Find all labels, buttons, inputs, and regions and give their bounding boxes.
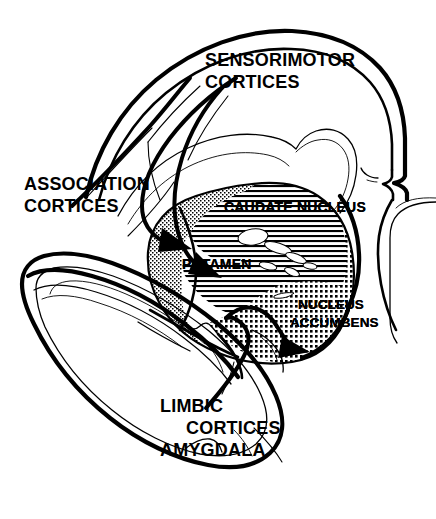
sensorimotor-label-line1: SENSORIMOTOR bbox=[205, 50, 355, 70]
accumbens-label-line1: NUCLEUS bbox=[298, 297, 364, 312]
putamen-label: PUTAMEN bbox=[182, 256, 252, 272]
label-caudate-nucleus: CAUDATE NUCLEUS CAUDATE NUCLEUS bbox=[224, 199, 366, 215]
accumbens-label-line2: ACCUMBENS bbox=[290, 315, 379, 330]
label-putamen: PUTAMEN PUTAMEN bbox=[182, 256, 252, 272]
amygdala-label-line3: AMYGDALA bbox=[160, 440, 266, 460]
caudate-label: CAUDATE NUCLEUS bbox=[224, 199, 366, 215]
association-label-line2: CORTICES bbox=[24, 196, 119, 216]
diagram-canvas: SENSORIMOTOR CORTICES ASSOCIATION CORTIC… bbox=[0, 0, 436, 519]
sensorimotor-label-line2: CORTICES bbox=[205, 72, 300, 92]
association-label-line1: ASSOCIATION bbox=[24, 174, 150, 194]
limbic-label-line1: LIMBIC bbox=[160, 396, 223, 416]
limbic-label-line2: CORTICES bbox=[186, 418, 281, 438]
brain-schematic-svg: SENSORIMOTOR CORTICES ASSOCIATION CORTIC… bbox=[0, 0, 436, 519]
